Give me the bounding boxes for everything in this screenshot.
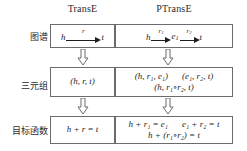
triple-box-transe: (h, r, t) — [50, 67, 115, 97]
row-label-triple: 三元组 — [0, 79, 48, 92]
ptranse-tail-entity: t — [200, 33, 203, 43]
graph-box-ptranse: h r1 e1 r2 t — [115, 24, 233, 48]
transe-ptranse-comparison-diagram: TransE PTransE 图谱 三元组 目标函数 h r t h r1 e1 — [0, 0, 247, 151]
transe-relation-label: r — [66, 28, 100, 35]
down-block-arrow-icon — [77, 98, 89, 115]
right-arrow-icon: r2 — [180, 30, 199, 43]
transe-head-entity: h — [61, 33, 66, 43]
ptranse-triple-formula-1: (h, r₁, e₁) — [135, 71, 168, 81]
objective-box-ptranse: h + r₁ = e₁ e₁ + r₂ = t h + (r₁∘r₂) = t — [115, 116, 233, 144]
column-header-ptranse: PTransE — [115, 3, 233, 14]
transe-triple-formula: (h, r, t) — [70, 76, 95, 87]
row-label-objective-function: 目标函数 — [0, 124, 48, 137]
right-arrow-icon: r1 — [151, 30, 170, 43]
column-header-transe: TransE — [50, 3, 115, 14]
ptranse-triple-formula-composed: (h, r₁∘r₂, t) — [154, 82, 194, 93]
ptranse-relation2-label: r2 — [180, 28, 199, 36]
down-block-arrow-icon — [162, 49, 174, 66]
ptranse-objective-formula-1: h + r₁ = e₁ — [129, 119, 168, 129]
ptranse-path-chain: h r1 e1 r2 t — [146, 30, 202, 43]
ptranse-objective-formula-composed: h + (r₁∘r₂) = t — [148, 130, 200, 141]
down-block-arrow-icon — [162, 98, 174, 115]
down-block-arrow-icon — [77, 49, 89, 66]
transe-tail-entity: t — [101, 33, 104, 43]
triple-box-ptranse: (h, r₁, e₁) (e₁, r₂, t) (h, r₁∘r₂, t) — [115, 67, 233, 97]
ptranse-objective-formula-2: e₁ + r₂ = t — [182, 119, 219, 129]
ptranse-triple-formula-2: (e₁, r₂, t) — [182, 71, 213, 81]
objective-box-transe: h + r = t — [50, 116, 115, 144]
right-arrow-icon: r — [66, 30, 100, 43]
transe-triple-chain: h r t — [61, 30, 104, 43]
ptranse-relation1-label: r1 — [151, 28, 170, 36]
graph-box-transe: h r t — [50, 24, 115, 48]
row-label-graph: 图谱 — [0, 30, 48, 43]
ptranse-head-entity: h — [146, 33, 151, 43]
transe-objective-formula: h + r = t — [67, 124, 99, 135]
ptranse-middle-entity: e1 — [171, 32, 178, 42]
